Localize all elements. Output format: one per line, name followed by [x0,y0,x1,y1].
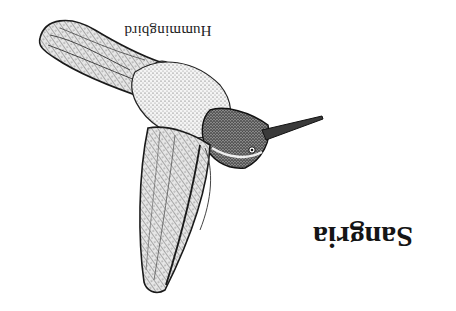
hummingbird-illustration [0,0,456,311]
caption-label: Hummingbird [98,22,238,39]
wing [140,127,211,292]
head [202,108,269,168]
caption-title: Sangria [298,220,428,254]
illustration-page: Hummingbird Sangria [0,0,456,311]
beak [262,116,323,140]
